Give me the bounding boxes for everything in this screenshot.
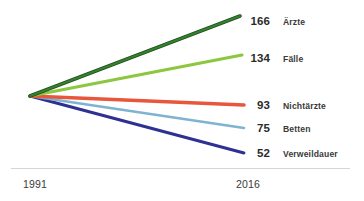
- value-label-verweildauer: 52: [244, 147, 270, 159]
- value-label-faelle: 134: [244, 52, 270, 64]
- series-line-aerzte: [30, 16, 240, 96]
- series-label-faelle: Fälle: [283, 54, 303, 64]
- x-tick-label-2016: 2016: [236, 178, 260, 190]
- slope-chart-figure: 166 Ärzte 134 Fälle 93 Nichtärzte 75 Bet…: [0, 0, 364, 201]
- series-label-nichtaerzte: Nichtärzte: [283, 101, 326, 111]
- value-label-aerzte: 166: [244, 15, 270, 27]
- series-label-verweildauer: Verweildauer: [283, 149, 338, 159]
- value-label-betten: 75: [244, 122, 270, 134]
- x-tick-label-1991: 1991: [23, 178, 47, 190]
- value-label-nichtaerzte: 93: [244, 99, 270, 111]
- series-line-faelle: [30, 55, 242, 96]
- series-label-betten: Betten: [283, 124, 311, 134]
- series-label-aerzte: Ärzte: [283, 17, 305, 27]
